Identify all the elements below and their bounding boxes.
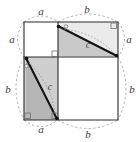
arc-top-b [58,14,118,22]
vertex-dot-filled-upper-right [115,54,119,58]
label-left-bottom-b: b [5,83,11,95]
label-bottom-left-a: a [38,123,44,135]
vertex-dot-filled-lower-top [25,57,29,61]
arc-right-a [118,22,125,57]
arc-right-b [118,57,126,120]
vertex-dot-filled-upper-left [57,25,61,29]
arc-left-a [18,22,25,57]
square-b-bottom-right [58,57,118,120]
label-left-top-a: a [9,33,15,45]
label-right-top-a: a [126,33,132,45]
label-hypotenuse-lower-c: c [48,81,53,92]
arc-left-b [16,57,24,120]
label-right-bottom-b: b [129,83,135,95]
label-top-right-b: b [84,3,90,15]
vertex-dot-filled-lower-bottom [55,117,59,121]
label-top-left-a: a [38,5,44,17]
square-a-top-left [24,22,58,57]
diagram-canvas: a b a b a b a b c c [0,0,140,142]
pythagorean-diagram: a b a b a b a b c c [0,0,140,142]
label-hypotenuse-upper-c: c [86,39,91,50]
vertex-dot-open-upper [64,25,67,28]
vertex-dot-open-lower [25,64,28,67]
label-bottom-right-b: b [85,128,91,140]
